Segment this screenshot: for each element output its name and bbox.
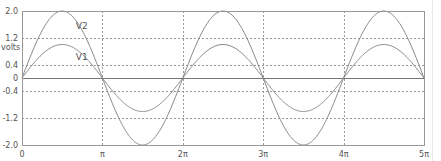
series-labels: V1V2	[76, 21, 88, 61]
x-tick-label: 5π	[419, 150, 429, 159]
y-tick-label: 0	[13, 74, 18, 83]
window-edge	[432, 0, 433, 161]
y-axis-ticks: 2.01.20.40-0.4-1.2-2.0	[2, 7, 18, 150]
x-axis-ticks: 0π2π3π4π5π	[19, 150, 429, 159]
x-tick-label: 2π	[178, 150, 188, 159]
y-axis-label: volts	[1, 43, 20, 52]
y-tick-label: 0.4	[5, 61, 18, 70]
x-tick-label: 4π	[339, 150, 349, 159]
x-tick-label: 3π	[258, 150, 268, 159]
y-tick-label: -0.4	[2, 87, 18, 96]
x-tick-label: π	[100, 150, 105, 159]
series-v2-label: V2	[76, 21, 88, 31]
y-tick-label: 2.0	[5, 7, 18, 16]
y-tick-label: -2.0	[2, 141, 18, 150]
series-v1-label: V1	[76, 52, 88, 62]
y-tick-label: 1.2	[5, 34, 18, 43]
y-tick-label: -1.2	[2, 114, 18, 123]
sine-chart: 2.01.20.40-0.4-1.2-2.0 0π2π3π4π5π V1V2 v…	[0, 0, 441, 161]
x-tick-label: 0	[19, 150, 24, 159]
